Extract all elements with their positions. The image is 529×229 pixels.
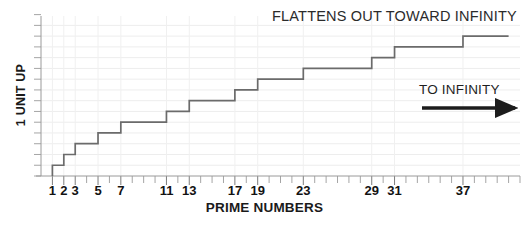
x-tick-label: 23 bbox=[296, 183, 310, 198]
x-tick-label: 17 bbox=[228, 183, 242, 198]
annotation-to-infinity: TO INFINITY bbox=[419, 82, 500, 97]
y-axis-label: 1 UNIT UP bbox=[14, 50, 28, 140]
x-tick-label: 2 bbox=[60, 183, 67, 198]
x-tick-label: 29 bbox=[364, 183, 378, 198]
x-tick-label: 13 bbox=[182, 183, 196, 198]
x-tick-label: 19 bbox=[250, 183, 264, 198]
prime-counting-step-chart: FLATTENS OUT TOWARD INFINITY TO INFINITY… bbox=[0, 0, 529, 229]
x-tick-label: 37 bbox=[456, 183, 470, 198]
x-tick-label: 5 bbox=[94, 183, 101, 198]
x-tick-label: 31 bbox=[387, 183, 401, 198]
annotation-flattens-out: FLATTENS OUT TOWARD INFINITY bbox=[272, 8, 517, 24]
x-axis-label: PRIME NUMBERS bbox=[0, 200, 529, 215]
y-axis-ticks bbox=[34, 15, 41, 176]
x-tick-label: 7 bbox=[117, 183, 124, 198]
x-tick-label: 1 bbox=[49, 183, 56, 198]
x-tick-label: 3 bbox=[72, 183, 79, 198]
x-tick-label: 11 bbox=[160, 183, 174, 198]
